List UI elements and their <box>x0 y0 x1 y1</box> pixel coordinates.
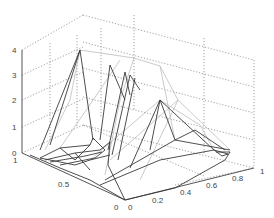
x-tick-1: 1 <box>260 167 265 176</box>
x-tick-0-6: 0.6 <box>206 181 218 190</box>
axes-box-grid <box>22 15 254 185</box>
y-tick-0-5: 0.5 <box>58 180 70 189</box>
x-tick-0-4: 0.4 <box>180 188 192 197</box>
y-tick-0: 0 <box>114 203 119 212</box>
mesh-light-edges <box>45 50 230 180</box>
chart-figure: 4 3 2 1 0 1 0.5 0 0 0.2 0.4 0.6 0.8 1 <box>0 0 274 218</box>
x-tick-0: 0 <box>128 203 133 212</box>
z-tick-2: 2 <box>12 96 17 105</box>
y-tick-1: 1 <box>13 156 18 165</box>
mesh-plot-3d: 4 3 2 1 0 1 0.5 0 0 0.2 0.4 0.6 0.8 1 <box>0 0 274 218</box>
x-tick-0-2: 0.2 <box>152 196 164 205</box>
z-tick-3: 3 <box>12 71 17 80</box>
x-axis-ticks: 0 0.2 0.4 0.6 0.8 1 <box>128 167 265 212</box>
z-tick-1: 1 <box>12 123 17 132</box>
z-axis-ticks: 4 3 2 1 0 <box>12 46 17 158</box>
axis-lines <box>22 50 254 200</box>
x-tick-0-8: 0.8 <box>232 174 244 183</box>
z-tick-4: 4 <box>12 46 17 55</box>
